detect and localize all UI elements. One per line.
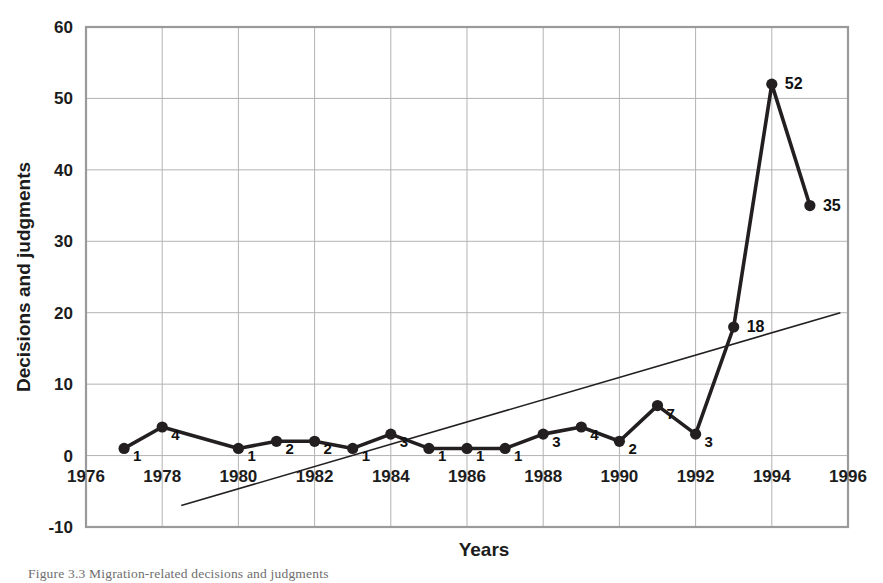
data-point-marker [690, 429, 701, 440]
figure-container: 6050403020100-10 19761978198019821984198… [0, 0, 883, 583]
data-point-marker [614, 436, 625, 447]
data-point-label: 2 [628, 440, 636, 457]
x-tick-label: 1988 [524, 467, 562, 486]
data-point-marker [309, 436, 320, 447]
data-point-label: 1 [362, 447, 370, 464]
data-point-label: 4 [590, 426, 599, 443]
y-tick-label: 20 [54, 304, 73, 323]
data-point-marker [804, 200, 815, 211]
data-point-marker [233, 443, 244, 454]
data-point-label: 1 [476, 447, 484, 464]
x-tick-label: 1990 [600, 467, 638, 486]
line-chart: 6050403020100-10 19761978198019821984198… [0, 0, 883, 583]
x-tick-label: 1986 [448, 467, 486, 486]
data-point-marker [423, 443, 434, 454]
data-point-marker [157, 421, 168, 432]
data-point-marker [461, 443, 472, 454]
data-point-label: 7 [667, 405, 675, 422]
x-tick-label: 1980 [219, 467, 257, 486]
data-point-label: 1 [438, 447, 446, 464]
data-point-label: 3 [552, 433, 560, 450]
data-point-label: 4 [171, 426, 180, 443]
data-point-marker [766, 79, 777, 90]
data-point-label: 1 [247, 447, 255, 464]
chart-background [0, 0, 883, 583]
x-tick-label: 1994 [753, 467, 791, 486]
y-tick-label: 40 [54, 161, 73, 180]
x-tick-label: 1992 [677, 467, 715, 486]
data-point-label: 2 [324, 440, 332, 457]
y-axis-title: Decisions and judgments [13, 162, 34, 392]
data-point-label: 18 [747, 318, 765, 335]
data-point-label: 2 [286, 440, 294, 457]
y-tick-label: 30 [54, 232, 73, 251]
x-tick-label: 1976 [67, 467, 105, 486]
data-point-marker [385, 429, 396, 440]
x-axis-title: Years [459, 539, 510, 560]
y-tick-label: 50 [54, 89, 73, 108]
y-tick-label: -10 [48, 518, 73, 537]
data-point-label: 1 [133, 447, 141, 464]
y-tick-label: 0 [64, 447, 73, 466]
data-point-marker [119, 443, 130, 454]
data-point-marker [271, 436, 282, 447]
data-point-marker [500, 443, 511, 454]
data-point-label: 35 [823, 197, 841, 214]
data-point-marker [576, 421, 587, 432]
data-point-marker [347, 443, 358, 454]
y-tick-label: 60 [54, 18, 73, 37]
data-point-label: 52 [785, 75, 803, 92]
data-point-label: 3 [400, 433, 408, 450]
x-tick-label: 1982 [296, 467, 334, 486]
figure-caption: Figure 3.3 Migration-related decisions a… [28, 566, 868, 582]
y-tick-label: 10 [54, 375, 73, 394]
data-point-label: 1 [514, 447, 522, 464]
data-point-marker [728, 321, 739, 332]
x-tick-label: 1984 [372, 467, 410, 486]
x-tick-label: 1978 [143, 467, 181, 486]
data-point-marker [652, 400, 663, 411]
data-point-label: 3 [705, 433, 713, 450]
x-tick-label: 1996 [829, 467, 867, 486]
data-point-marker [538, 429, 549, 440]
